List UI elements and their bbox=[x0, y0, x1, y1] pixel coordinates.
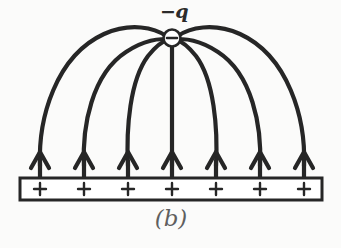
field-line-1 bbox=[40, 27, 166, 166]
field-line-group bbox=[40, 27, 304, 166]
negative-charge-marker bbox=[164, 30, 181, 47]
field-line-3 bbox=[128, 40, 168, 166]
field-line-5 bbox=[176, 40, 216, 166]
panel-label: (b) bbox=[131, 205, 211, 231]
field-line-6 bbox=[177, 39, 260, 166]
charge-label: −q bbox=[152, 1, 196, 21]
figure-panel-b: −q (b) bbox=[0, 0, 341, 248]
field-line-2 bbox=[84, 39, 167, 166]
field-line-7 bbox=[178, 27, 304, 166]
